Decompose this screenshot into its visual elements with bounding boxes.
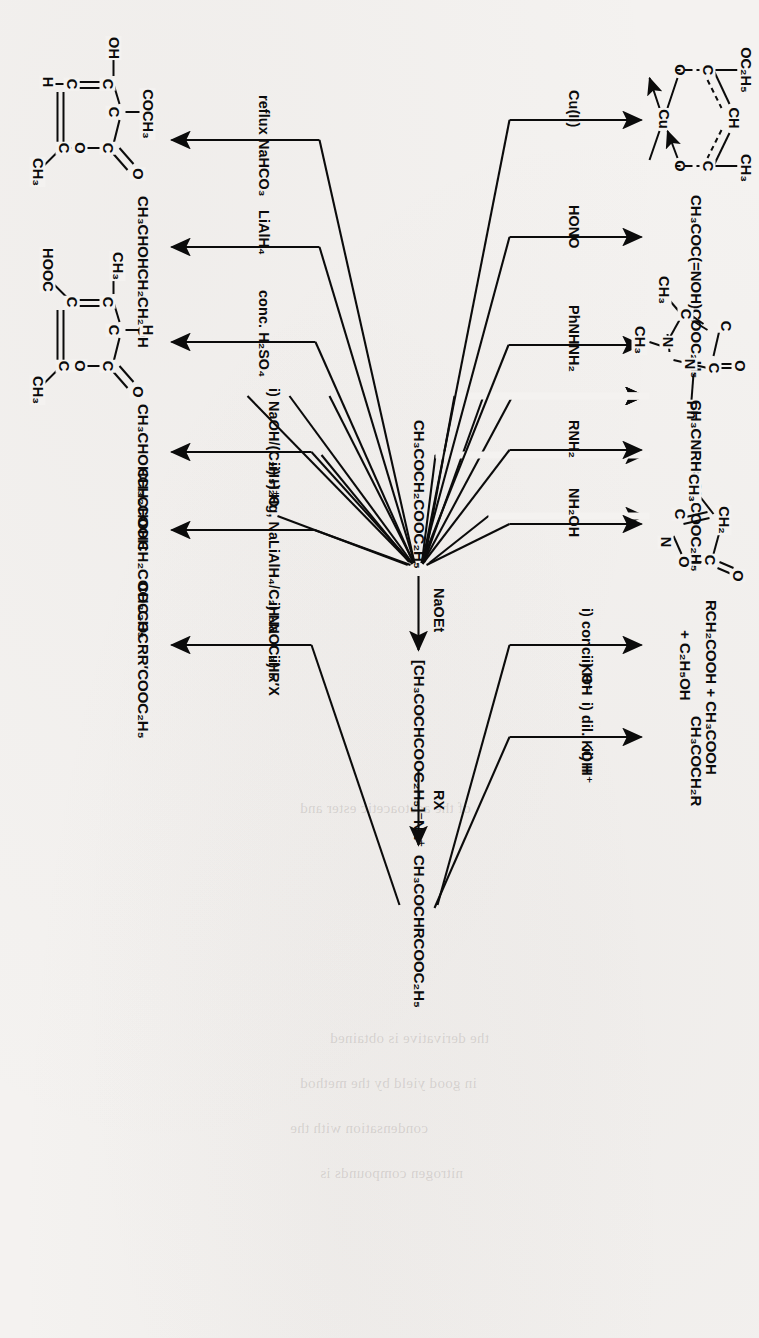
atom-ch3-c3: CH₃ [655, 275, 671, 305]
atom-c-l: C [99, 78, 115, 91]
reagent-conc-koh-2: ii) H⁺ [578, 655, 594, 690]
product-dialkylated-ester: CH₃COCRR′COOC₂H₅ [134, 582, 151, 739]
atom-c-3: C [677, 308, 693, 321]
atom-n-2: N [659, 336, 675, 349]
atom-o-ring2: O [71, 359, 87, 372]
reagent-dil-koh-2: ii) H⁺ [578, 748, 594, 783]
alkylated-ester-label: CH₃COCHRCOOC₂H₅ [410, 855, 427, 1008]
reagent-hg-na: Hg, Na [265, 494, 281, 540]
reagent-phnhnh2: PhNHNH₂ [565, 305, 581, 372]
atom-c-bl: C [63, 78, 79, 91]
atom-oh: OH [105, 36, 121, 60]
atom-h: H [39, 76, 55, 89]
reagent-naoh-et2o-2: ii) H⁺ [265, 462, 281, 497]
reagent-conc-h2so4: conc. H₂SO₄ [255, 290, 271, 377]
product-acid-cleavage-line1: RCH₂COOH + CH₃COOH [702, 600, 719, 775]
atom-o-exo2: O [129, 167, 145, 180]
reagent-rx: RX [430, 790, 446, 810]
reagent-hono: HONO [565, 205, 581, 249]
atom-c-r2: C [99, 360, 115, 373]
reagent-nh2oh: NH₂OH [565, 488, 581, 537]
reaction-scheme: CH₃COCH₂COOC₂H₅ NaOEt [CH₃COCHCOOC₂H₅]⁻N… [0, 0, 759, 1338]
atom-h-iso: H [139, 324, 155, 337]
atom-ch3-ring: CH₃ [29, 157, 45, 187]
atom-c-carbonyl: C [705, 362, 721, 375]
atom-c-top2: C [105, 324, 121, 337]
atom-ch2: CH₂ [715, 505, 731, 535]
reagent-rprime-x: ii) R′X [265, 655, 281, 696]
atom-n-iso: N [657, 536, 673, 549]
product-ketone-cleavage: CH₃COCH₂R [687, 716, 704, 806]
atom-ch3-iso: CH₃ [685, 473, 701, 503]
atom-ch3-ring2: CH₃ [29, 375, 45, 405]
atom-c-l2: C [99, 296, 115, 309]
atom-o-exo3: O [129, 385, 145, 398]
atom-c-br2: C [55, 360, 71, 373]
atom-c-top: C [105, 106, 121, 119]
reagent-naoet: NaOEt [430, 588, 446, 632]
atom-c-bl2: C [63, 296, 79, 309]
atom-ch3-n2: CH₃ [631, 325, 647, 355]
atom-o-ring: O [71, 141, 87, 154]
product-acid-cleavage-line2: + C₂H₅OH [676, 630, 693, 701]
rotated-scheme-container: CH₃COCH₂COOC₂H₅ NaOEt [CH₃COCHCOOC₂H₅]⁻N… [0, 0, 759, 1338]
atom-c-r: C [99, 142, 115, 155]
atom-hooc: HOOC [39, 247, 55, 293]
atom-n-1: N [681, 358, 697, 371]
starting-material-label: CH₃COCH₂COOC₂H₅ [410, 420, 427, 569]
atom-c-br: C [55, 142, 71, 155]
atom-coch3: COCH₃ [139, 88, 155, 140]
sodium-enolate-label: [CH₃COCHCOOC₂H₅]⁻Na⁺ [409, 660, 427, 847]
product-isoxazolone: CH₂ O C C O N CH₃ [644, 470, 749, 620]
atom-ch3-iso2: CH₃ [109, 251, 125, 281]
atom-c-3b: C [671, 508, 687, 521]
atom-c-4: C [717, 320, 733, 333]
reagent-rnh2: RNH₂ [565, 420, 581, 458]
reagent-lialh4: LiAlH₄ [255, 210, 271, 255]
reagent-reflux-nahco3: reflux NaHCO₃ [255, 95, 271, 197]
reagent-cu2: Cu(II) [565, 90, 581, 127]
atom-c-5: C [701, 554, 717, 567]
atom-o-2: O [675, 555, 691, 568]
atom-o-carbonyl: O [731, 359, 747, 372]
atom-o-exo: O [729, 569, 745, 582]
